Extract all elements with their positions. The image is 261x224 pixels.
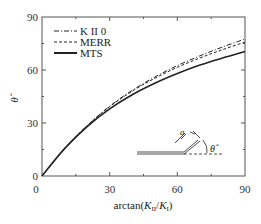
legend-label-mts: MTS (80, 47, 103, 59)
y-tick-label-60: 60 (27, 64, 39, 76)
series-line-merr (42, 42, 245, 176)
inset-a-label: a (180, 127, 185, 137)
inset-theta-label: θ̂ (210, 143, 219, 154)
x-axis-title: arctan(KII/KI) (114, 199, 173, 213)
y-ticks (42, 44, 245, 150)
x-tick-label-0: 0 (33, 183, 39, 195)
x-tick-label-60: 60 (172, 183, 184, 195)
x-tick-label-90: 90 (240, 183, 252, 195)
y-tick-label-30: 30 (27, 117, 39, 129)
series-line-mts (42, 51, 245, 176)
y-axis-title: θ̂ (8, 92, 20, 102)
x-tick-label-30: 30 (104, 183, 116, 195)
chart: 0 30 60 90 0 30 60 90 θ̂ arctan(KII/KI) … (0, 0, 261, 224)
y-tick-label-0: 0 (33, 170, 39, 182)
y-tick-label-90: 90 (27, 11, 39, 23)
series-lines (42, 39, 245, 176)
legend: K II 0 MERR MTS (54, 25, 112, 59)
